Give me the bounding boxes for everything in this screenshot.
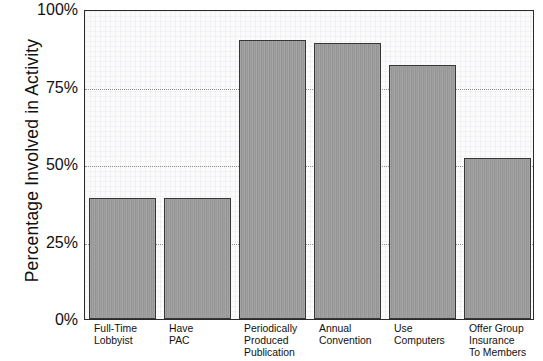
- x-axis-category-labels: Full-TimeLobbyistHavePACPeriodicallyProd…: [84, 323, 534, 361]
- bar: [89, 198, 156, 319]
- y-axis-tick-100: 100%: [12, 1, 78, 19]
- bar: [389, 65, 456, 319]
- bar: [314, 43, 381, 319]
- bar-chart: Percentage Involved in Activity 0%25%50%…: [0, 0, 543, 361]
- bar: [164, 198, 231, 319]
- bar: [239, 40, 306, 319]
- bars-layer: [85, 11, 533, 319]
- y-axis-tick-0: 0%: [12, 311, 78, 329]
- y-axis-tick-75: 75%: [12, 79, 78, 97]
- plot-area: [84, 10, 534, 320]
- y-axis-tick-50: 50%: [12, 156, 78, 174]
- bar: [464, 158, 531, 319]
- y-axis-tick-25: 25%: [12, 234, 78, 252]
- x-axis-label: Offer GroupInsuranceTo Members: [469, 323, 543, 358]
